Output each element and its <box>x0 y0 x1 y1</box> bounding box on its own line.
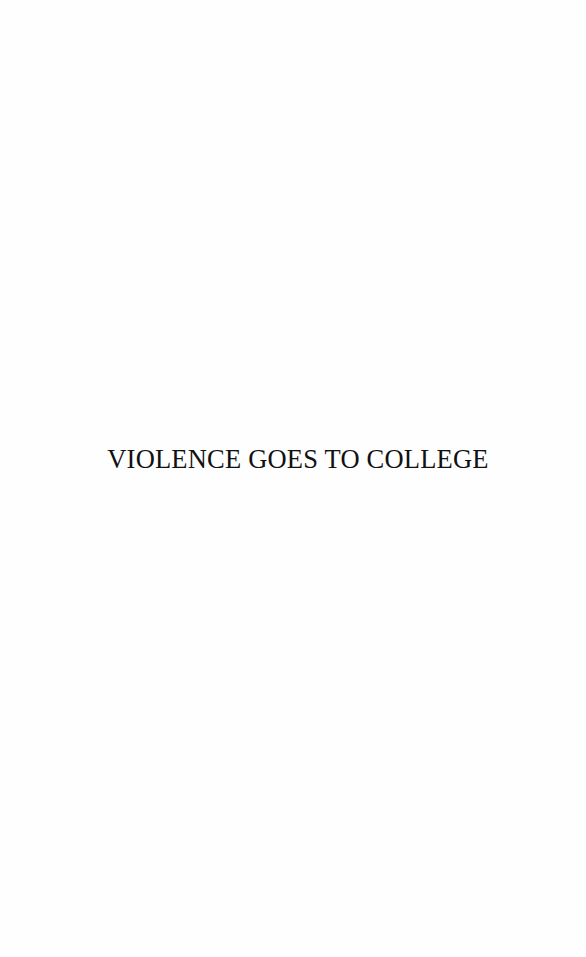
half-title: VIOLENCE GOES TO COLLEGE <box>0 443 586 475</box>
book-page: VIOLENCE GOES TO COLLEGE <box>0 0 586 957</box>
